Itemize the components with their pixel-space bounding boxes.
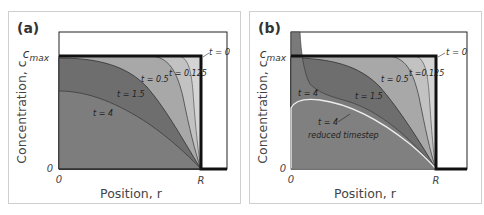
label-t15: t = 1.5 xyxy=(117,90,145,99)
panel-b: (b) cmax 0 0 R Position, r Concentration… xyxy=(249,11,482,204)
y-tick-zero: 0 xyxy=(47,163,53,174)
chart-b: (b) cmax 0 0 R Position, r Concentration… xyxy=(250,12,483,205)
label-t0: t = 0 xyxy=(446,47,467,57)
label-t0125: t = 0.125 xyxy=(169,69,207,78)
x-tick-zero: 0 xyxy=(56,174,62,185)
label-t4: t = 4 xyxy=(93,109,113,118)
x-tick-R: R xyxy=(433,175,440,186)
x-tick-zero: 0 xyxy=(288,174,294,185)
chart-a: (a) cmax 0 0 R Position, r Concentration… xyxy=(9,12,242,205)
x-axis-label: Position, r xyxy=(100,186,163,201)
panel-label: (b) xyxy=(258,20,281,36)
label-t0125: t =0.125 xyxy=(409,69,444,78)
x-tick-R: R xyxy=(198,175,205,186)
label-t0: t = 0 xyxy=(209,47,230,57)
y-axis-label: Concentration, c xyxy=(14,60,29,163)
label-t05: t = 0.5 xyxy=(141,75,169,84)
y-axis-label: Concentration, c xyxy=(255,60,270,163)
label-t05: t = 0.5 xyxy=(381,75,409,84)
label-t15: t = 1.5 xyxy=(355,92,383,101)
x-axis-label: Position, r xyxy=(334,186,397,201)
panel-a: (a) cmax 0 0 R Position, r Concentration… xyxy=(8,11,241,204)
label-t4-unstable: t = 4 xyxy=(298,89,318,98)
panel-label: (a) xyxy=(17,20,39,36)
y-tick-zero: 0 xyxy=(280,163,286,174)
label-reduced-timestep: reduced timestep xyxy=(308,131,379,140)
label-t4-reduced: t = 4 xyxy=(318,118,338,127)
